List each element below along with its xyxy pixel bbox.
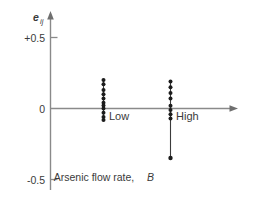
data-point: [169, 85, 173, 89]
data-point: [169, 80, 173, 84]
data-point: [102, 78, 106, 82]
x-axis-arrowhead: [230, 105, 239, 112]
data-point: [102, 82, 106, 86]
y-tick-label-plus-half: +0.5: [24, 32, 45, 44]
y-tick-label-minus-half: -0.5: [27, 174, 45, 186]
data-point: [169, 112, 173, 116]
y-axis-arrowhead: [47, 11, 54, 20]
data-point: [169, 117, 173, 121]
data-point: [169, 97, 173, 101]
x-axis-caption: Arsenic flow rate,: [54, 171, 135, 183]
data-point: [102, 111, 106, 115]
group-label-high: High: [176, 110, 199, 122]
data-point: [169, 104, 173, 108]
residual-scatter-chart: +0.5 0 -0.5 e ij Low High Arsenic flow r…: [0, 0, 260, 197]
x-axis-caption-variable: B: [147, 171, 154, 183]
x-axis-caption-text: Arsenic flow rate,: [54, 171, 135, 183]
y-tick-label-zero: 0: [39, 103, 45, 115]
group-label-low: Low: [109, 110, 129, 122]
data-point: [102, 92, 106, 96]
data-point: [102, 97, 106, 101]
y-axis-label-subscript: ij: [40, 17, 44, 26]
data-point: [102, 107, 106, 111]
data-point: [169, 108, 173, 112]
y-axis-label-base: e: [33, 11, 39, 23]
low-point-group: [102, 78, 106, 122]
data-point-outlier: [168, 156, 172, 160]
data-point: [102, 88, 106, 92]
data-point: [169, 91, 173, 95]
data-point: [102, 118, 106, 122]
